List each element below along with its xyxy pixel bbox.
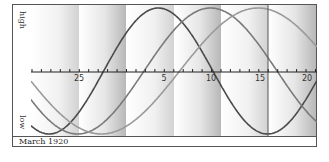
chart-footer: March 1920: [13, 136, 316, 147]
week-band: [31, 5, 79, 136]
chart-canvas: 255101520: [31, 5, 317, 136]
biorhythm-chart: high low 255101520 March 1920: [12, 4, 317, 147]
y-label-high: high: [18, 11, 27, 29]
week-band: [221, 5, 268, 136]
plot-area: 255101520: [31, 5, 317, 136]
x-tick-label: 25: [74, 74, 84, 83]
week-band: [79, 5, 126, 136]
x-tick-label: 15: [255, 74, 265, 83]
y-axis-labels: high low: [13, 5, 32, 136]
x-tick-label: 5: [161, 74, 166, 83]
x-tick-label: 10: [206, 74, 216, 83]
x-tick-label: 20: [302, 74, 312, 83]
week-band: [268, 5, 316, 136]
month-label: March 1920: [19, 137, 68, 146]
y-label-low: low: [18, 115, 27, 129]
